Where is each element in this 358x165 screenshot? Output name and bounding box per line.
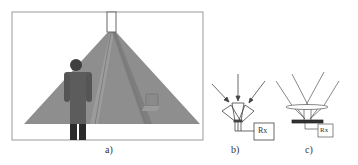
lens — [286, 105, 328, 110]
panel-a-room — [12, 12, 203, 140]
ceiling-transmitter — [107, 12, 116, 32]
panel-c-imaging-receiver — [276, 72, 339, 137]
panel-label-b: b) — [231, 144, 239, 155]
panel-label-c: c) — [305, 144, 313, 155]
rx-label-b: Rx — [258, 126, 267, 135]
detector-array — [292, 120, 323, 123]
panel-label-a: a) — [105, 144, 113, 155]
photodetector-left — [222, 105, 240, 122]
figure-canvas — [0, 0, 358, 165]
rx-label-c: Rx — [320, 126, 328, 134]
